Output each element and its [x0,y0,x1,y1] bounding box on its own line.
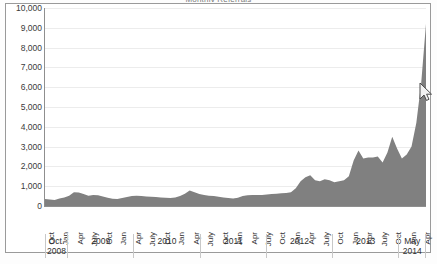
x-axis-year-label: 2010 [158,236,177,246]
x-axis-line [44,206,426,207]
x-axis-year-group: 2012 [266,234,332,258]
chart-title: Monthly Referrals [0,0,437,2]
area-series [45,8,426,206]
x-axis-year-group: May 2014 [398,234,426,258]
y-axis-line [44,8,45,207]
y-axis-tick-label: 8,000 [21,43,42,52]
x-axis-year-group: 2009 [67,234,133,258]
x-axis-year-group: Oct. 2008 [45,234,67,258]
y-axis-tick-label: 2,000 [21,162,42,171]
y-axis-tick-label: 7,000 [21,63,42,72]
y-axis: 10,0009,0008,0007,0006,0005,0004,0003,00… [6,8,42,206]
y-axis-tick-label: 4,000 [21,123,42,132]
chart-screenshot: Monthly Referrals 10,0009,0008,0007,0006… [0,0,437,264]
x-axis-year-groups: Oct. 200820092010201120122013May 2014 [45,234,426,260]
x-axis-year-group: 2011 [200,234,266,258]
y-axis-tick-label: 6,000 [21,83,42,92]
x-axis-year-group: 2010 [133,234,199,258]
x-axis-year-label: May 2014 [403,236,422,256]
y-axis-tick-label: 9,000 [21,24,42,33]
x-axis-month-labels: OctJanAprJulyOctJanAprJulyOctJanAprJulyO… [45,208,426,234]
x-axis-year-label: 2012 [290,236,309,246]
x-axis-year-label: Oct. 2008 [46,236,67,256]
y-axis-tick-label: 10,000 [16,4,42,13]
y-axis-tick-label: 3,000 [21,142,42,151]
plot-area [45,8,426,206]
x-axis-year-label: 2009 [91,236,110,246]
x-axis-year-group: 2013 [332,234,398,258]
x-axis-year-label: 2011 [224,236,242,246]
y-axis-tick-label: 0 [37,202,42,211]
area-path [45,24,426,206]
x-axis-year-label: 2013 [356,236,375,246]
y-axis-tick-label: 1,000 [21,182,42,191]
y-axis-tick-label: 5,000 [21,103,42,112]
